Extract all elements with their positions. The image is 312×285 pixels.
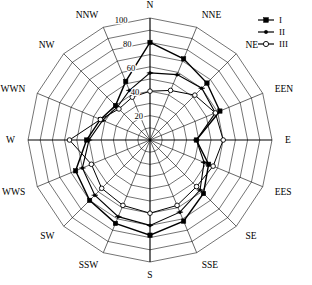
- datapoint-I-SSE: [181, 219, 185, 223]
- legend-label-II: II: [279, 27, 285, 37]
- direction-label-WWN: WWN: [0, 84, 25, 94]
- datapoint-III-SW: [99, 186, 104, 191]
- datapoint-III-WWS: [89, 162, 94, 167]
- legend-label-I: I: [279, 15, 282, 25]
- legend-label-III: III: [279, 39, 288, 49]
- datapoint-I-N: [148, 40, 152, 44]
- chart-canvas: 2020404060608080100100 NNNENEEENEEESSESS…: [0, 0, 312, 285]
- direction-label-NNE: NNE: [202, 10, 222, 20]
- radial-tick-label-60: 60: [127, 63, 136, 73]
- radial-tick-label-80: 80: [123, 39, 132, 49]
- axis-spoke-SE: [150, 140, 236, 226]
- direction-label-N: N: [147, 0, 154, 10]
- axis-spoke-EEN: [150, 93, 263, 140]
- axis-spoke-NW: [64, 54, 150, 140]
- datapoint-III-SE: [194, 184, 199, 189]
- radial-tick-label-100: 100: [115, 15, 128, 25]
- axis-spoke-SSE: [150, 140, 197, 253]
- direction-label-E: E: [285, 135, 291, 145]
- datapoint-III-SSE: [175, 203, 180, 208]
- datapoint-III-WWN: [98, 117, 103, 122]
- direction-label-NW: NW: [39, 40, 55, 50]
- chart-legend[interactable]: IIIIII: [258, 15, 288, 49]
- datapoint-III-EEN: [213, 111, 218, 116]
- datapoint-III-NE: [193, 93, 198, 98]
- datapoint-III-NW: [117, 107, 122, 112]
- datapoint-I-NE: [205, 81, 209, 85]
- direction-label-WWS: WWS: [2, 187, 25, 197]
- datapoint-I-S: [148, 233, 152, 237]
- datapoint-III-N: [148, 89, 153, 94]
- datapoint-I-WWS: [73, 169, 77, 173]
- datapoint-II-SW: [92, 194, 98, 197]
- direction-label-NE: NE: [245, 40, 258, 50]
- datapoint-III-SSW: [121, 203, 126, 208]
- datapoint-III-NNE: [168, 88, 173, 93]
- direction-label-NNW: NNW: [76, 10, 99, 20]
- datapoint-III-S: [148, 211, 153, 216]
- direction-label-SSE: SSE: [202, 260, 219, 270]
- direction-label-SW: SW: [40, 231, 54, 241]
- direction-label-SE: SE: [245, 231, 256, 241]
- direction-label-EEN: EEN: [275, 84, 294, 94]
- datapoint-I-SW: [87, 198, 91, 202]
- datapoint-I-NNE: [181, 57, 185, 61]
- legend-item-II[interactable]: II: [258, 27, 285, 37]
- radial-tick-label-20: 20: [135, 111, 144, 121]
- datapoint-I-SSW: [113, 221, 117, 225]
- direction-label-EES: EES: [275, 187, 292, 197]
- datapoint-I-SE: [201, 191, 205, 195]
- legend-item-III[interactable]: III: [258, 39, 288, 49]
- datapoint-III-EES: [211, 164, 216, 169]
- direction-label-SSW: SSW: [79, 260, 99, 270]
- direction-label-S: S: [147, 270, 152, 280]
- axis-spoke-NNE: [150, 27, 197, 140]
- polar-radar-chart: 2020404060608080100100 NNNENEEENEEESSESS…: [0, 0, 312, 285]
- datapoint-III-E: [221, 138, 226, 143]
- radial-tick-label-40: 40: [131, 87, 140, 97]
- datapoint-III-W: [67, 138, 72, 143]
- datapoint-II-N: [147, 71, 153, 74]
- datapoint-I-NNW: [124, 79, 128, 83]
- direction-label-W: W: [6, 135, 15, 145]
- legend-item-I[interactable]: I: [258, 15, 282, 25]
- axis-spoke-SSW: [103, 140, 150, 253]
- axis-spoke-SW: [64, 140, 150, 226]
